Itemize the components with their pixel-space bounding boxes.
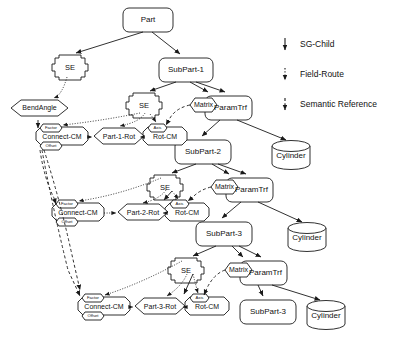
node-cylinder2-shape — [288, 223, 326, 252]
node-offset3-shape — [82, 312, 104, 320]
node-se1-shape — [52, 55, 88, 80]
node-cylinder1-shape — [272, 141, 310, 170]
node-subpart3a-shape — [196, 222, 252, 246]
edges-field-route — [54, 77, 198, 296]
node-matrix2-shape — [211, 180, 238, 194]
node-se3-shape — [147, 175, 183, 200]
diagram-canvas: Part SubPart-1 SubPart-2 SubPart-3 SubPa… — [0, 0, 399, 347]
node-part2rot-shape — [118, 204, 168, 220]
diagram-graphics — [0, 0, 399, 347]
node-subpart3b-shape — [240, 300, 296, 324]
node-offset2-shape — [56, 218, 78, 226]
node-matrix3-shape — [225, 263, 252, 277]
node-subpart1-shape — [159, 58, 213, 82]
node-cylinder3-shape — [307, 301, 345, 330]
node-axis1-shape — [148, 124, 167, 132]
node-part-shape — [123, 8, 173, 32]
node-bendangle-shape — [11, 100, 68, 116]
node-axis3-shape — [190, 294, 209, 302]
node-se4-shape — [168, 258, 204, 283]
node-part1rot-shape — [94, 128, 144, 144]
node-factor3-shape — [82, 294, 104, 302]
node-factor1-shape — [40, 124, 62, 132]
node-axis2-shape — [170, 200, 189, 208]
node-matrix1-shape — [190, 98, 217, 112]
node-part3rot-shape — [135, 298, 185, 314]
node-offset1-shape — [40, 142, 62, 150]
